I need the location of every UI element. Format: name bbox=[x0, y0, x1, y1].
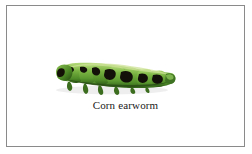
figure-card: Corn earworm bbox=[0, 0, 252, 154]
specimen-image bbox=[0, 0, 252, 110]
caterpillar-illustration bbox=[0, 0, 252, 110]
caterpillar-body bbox=[56, 63, 175, 95]
figure-caption: Corn earworm bbox=[6, 99, 245, 112]
